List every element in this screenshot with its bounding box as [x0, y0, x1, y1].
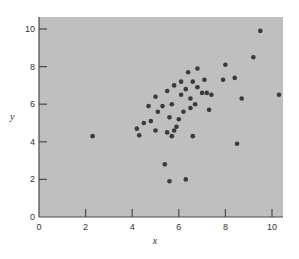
data-point: [190, 134, 195, 139]
x-tick-label: 10: [267, 222, 277, 232]
y-tick-label: 0: [30, 212, 35, 222]
data-point: [153, 128, 158, 133]
data-point: [183, 177, 188, 182]
data-point: [149, 119, 154, 124]
data-point: [232, 76, 237, 81]
data-point: [204, 91, 209, 96]
data-point: [202, 77, 207, 82]
y-tick-label: 2: [30, 174, 35, 184]
scatter-chart: 0246810 0246810 y x: [0, 0, 299, 259]
data-point: [181, 109, 186, 114]
data-point: [195, 66, 200, 71]
data-point: [156, 109, 161, 114]
data-point: [188, 96, 193, 101]
data-point: [188, 106, 193, 111]
data-point: [258, 29, 263, 34]
x-tick-label: 4: [130, 222, 135, 232]
data-point: [179, 79, 184, 84]
data-point: [137, 133, 142, 138]
data-point: [179, 93, 184, 98]
y-tick-label: 10: [25, 24, 35, 34]
data-point: [167, 179, 172, 184]
data-point: [207, 108, 212, 113]
data-point: [146, 104, 151, 109]
data-point: [200, 91, 205, 96]
data-point: [160, 104, 165, 109]
data-point: [195, 85, 200, 90]
data-point: [174, 124, 179, 129]
y-tick-label: 6: [30, 99, 35, 109]
data-point: [170, 102, 175, 107]
y-tick-label: 4: [30, 137, 35, 147]
data-point: [223, 62, 228, 67]
data-point: [153, 94, 158, 99]
data-point: [163, 162, 168, 167]
data-point: [170, 134, 175, 139]
x-tick-label: 0: [36, 222, 41, 232]
data-point: [251, 55, 256, 60]
data-point: [193, 102, 198, 107]
data-point: [190, 79, 195, 84]
data-point: [167, 115, 172, 120]
data-point: [142, 121, 147, 126]
plot-area: [39, 17, 283, 217]
y-axis-label: y: [9, 111, 15, 122]
x-tick-label: 2: [83, 222, 88, 232]
data-point: [221, 77, 226, 82]
data-point: [186, 70, 191, 75]
data-point: [165, 130, 170, 135]
x-axis-label: x: [152, 235, 158, 246]
data-point: [90, 134, 95, 139]
data-point: [235, 141, 240, 146]
data-point: [135, 126, 140, 131]
y-tick-label: 8: [30, 62, 35, 72]
data-point: [165, 89, 170, 94]
x-tick-label: 8: [223, 222, 228, 232]
data-point: [183, 87, 188, 92]
data-point: [239, 96, 244, 101]
data-point: [177, 117, 182, 122]
x-tick-label: 6: [176, 222, 181, 232]
data-point: [209, 93, 214, 98]
data-point: [277, 93, 282, 98]
data-point: [172, 83, 177, 88]
